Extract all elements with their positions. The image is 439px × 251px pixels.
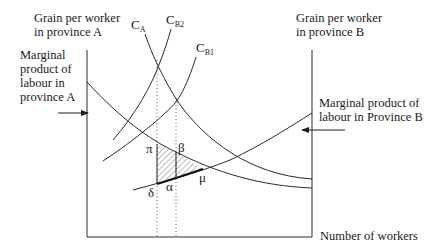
point-alpha-label: α: [166, 180, 173, 194]
mpl-a-label-line1: Marginal: [20, 48, 75, 62]
mpl-a-label-line2: product of: [20, 62, 75, 76]
mpl-a-label-line3: labour in: [20, 76, 75, 90]
cb2-label-main: C: [166, 12, 175, 27]
right-axis-label-line2: in province B: [296, 25, 382, 39]
right-axis-label: Grain per worker in province B: [296, 11, 382, 39]
mpl-b-label: Marginal product of labour in Province B: [319, 96, 423, 124]
left-axis-label: Grain per worker in province A: [34, 11, 120, 39]
point-pi-label: π: [146, 142, 153, 156]
ca-label-main: C: [131, 17, 140, 32]
point-mu-label: μ: [199, 171, 206, 185]
cb1-label: CB1: [196, 41, 214, 60]
mpl-a-label: Marginal product of labour in province A: [20, 48, 75, 104]
point-delta-label: δ: [148, 186, 154, 200]
ca-label: CA: [131, 18, 145, 37]
cb2-label-sub: B2: [175, 20, 184, 29]
ca-label-sub: A: [140, 25, 146, 34]
cb2-label: CB2: [166, 13, 184, 32]
mpl-b-label-line2: labour in Province B: [319, 110, 423, 124]
cb1-label-sub: B1: [205, 48, 214, 57]
x-axis-label: Number of workers: [320, 229, 418, 243]
cb2-curve: [113, 29, 171, 140]
mpl-b-label-line1: Marginal product of: [319, 96, 423, 110]
left-axis-label-line1: Grain per worker: [34, 11, 120, 25]
right-axis-label-line1: Grain per worker: [296, 11, 382, 25]
left-axis-label-line2: in province A: [34, 25, 120, 39]
point-beta-label: β: [178, 141, 185, 155]
mpl-a-label-line4: province A: [20, 90, 75, 104]
cb1-label-main: C: [196, 40, 205, 55]
